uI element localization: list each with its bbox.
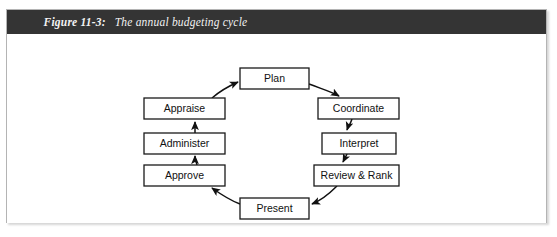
node-label-appraise: Appraise	[164, 102, 206, 114]
flow-arrow-interpret-to-review_rank	[343, 154, 347, 162]
flow-arrow-review_rank-to-present	[312, 186, 337, 204]
flow-arrow-appraise-to-plan	[212, 82, 238, 98]
flow-arrow-present-to-approve	[212, 188, 240, 204]
node-layer: PlanCoordinateInterpretReview & RankPres…	[144, 68, 399, 219]
node-administer[interactable]: Administer	[144, 133, 225, 154]
figure-frame: Figure 11-3:The annual budgeting cycle P…	[6, 9, 547, 223]
node-approve[interactable]: Approve	[144, 165, 225, 186]
cycle-diagram-svg: PlanCoordinateInterpretReview & RankPres…	[7, 34, 546, 223]
flow-arrow-plan-to-coordinate	[309, 84, 339, 96]
node-coordinate[interactable]: Coordinate	[318, 98, 399, 119]
flow-arrow-coordinate-to-interpret	[347, 119, 352, 130]
node-label-coordinate: Coordinate	[333, 102, 385, 114]
node-appraise[interactable]: Appraise	[144, 98, 225, 119]
flow-arrow-approve-to-administer	[195, 156, 197, 165]
node-present[interactable]: Present	[240, 198, 309, 219]
figure-container: Figure 11-3:The annual budgeting cycle P…	[0, 0, 557, 237]
node-label-approve: Approve	[165, 169, 204, 181]
node-plan[interactable]: Plan	[240, 68, 309, 89]
figure-caption-bar: Figure 11-3:The annual budgeting cycle	[7, 10, 546, 34]
node-label-present: Present	[256, 202, 292, 214]
node-label-review_rank: Review & Rank	[321, 169, 394, 181]
node-review_rank[interactable]: Review & Rank	[314, 165, 399, 186]
node-label-administer: Administer	[160, 137, 210, 149]
node-label-interpret: Interpret	[339, 137, 378, 149]
node-label-plan: Plan	[264, 72, 285, 84]
cycle-diagram: PlanCoordinateInterpretReview & RankPres…	[7, 34, 546, 223]
node-interpret[interactable]: Interpret	[322, 133, 396, 154]
figure-title: The annual budgeting cycle	[115, 16, 248, 28]
figure-number: Figure 11-3:	[44, 16, 106, 28]
